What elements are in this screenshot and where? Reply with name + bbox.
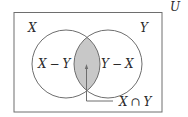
- set-y-label: Y: [140, 21, 149, 35]
- region-y-minus-x-label: Y−X: [101, 57, 134, 71]
- intersection-label: X∩Y: [118, 95, 153, 109]
- set-x-label: X: [27, 21, 37, 35]
- region-x-minus-y-label: X−Y: [37, 57, 72, 71]
- venn-diagram: U X Y X−Y Y−X X∩Y: [0, 0, 188, 117]
- universe-label: U: [170, 0, 181, 14]
